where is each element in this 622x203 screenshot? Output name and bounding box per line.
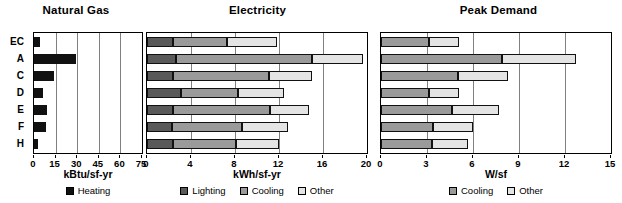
bar-segment-heating[interactable]	[34, 37, 40, 47]
x-tick-mark	[322, 155, 323, 158]
bar-segment-cooling[interactable]	[381, 54, 502, 64]
bar-segment-other[interactable]	[458, 71, 509, 81]
bar-row	[381, 122, 611, 132]
legend-label: Heating	[78, 186, 111, 196]
bar-segment-heating[interactable]	[34, 139, 38, 149]
bar-segment-lighting[interactable]	[147, 88, 181, 98]
x-axis-label-electricity: kWh/sf-yr	[146, 168, 368, 180]
bar-segment-cooling[interactable]	[173, 71, 269, 81]
x-axis-label-peak-demand: W/sf	[380, 168, 612, 180]
legend-item-heating[interactable]: Heating	[66, 186, 111, 196]
x-tick-mark	[234, 155, 235, 158]
bar-segment-lighting[interactable]	[147, 122, 172, 132]
bar-segment-lighting[interactable]	[147, 105, 173, 115]
y-axis-label-d: D	[17, 88, 24, 98]
legend-swatch-icon	[180, 187, 188, 195]
bar-row	[34, 105, 142, 115]
x-tick-mark	[278, 155, 279, 158]
legend-item-lighting[interactable]: Lighting	[180, 186, 225, 196]
x-axis-ticks-peak-demand: 03691215	[380, 155, 612, 169]
bar-segment-other[interactable]	[242, 122, 288, 132]
bar-row	[381, 71, 611, 81]
bar-segment-other[interactable]	[270, 105, 309, 115]
x-tick-mark	[366, 155, 367, 158]
bar-segment-other[interactable]	[312, 54, 363, 64]
bar-row	[381, 37, 611, 47]
bar-segment-lighting[interactable]	[147, 54, 176, 64]
bar-segment-lighting[interactable]	[147, 37, 173, 47]
bar-segment-other[interactable]	[227, 37, 277, 47]
bar-segment-cooling[interactable]	[176, 54, 312, 64]
bar-segment-other[interactable]	[429, 37, 460, 47]
bar-row	[147, 54, 367, 64]
legend-electricity: LightingCoolingOther	[146, 186, 368, 196]
y-axis-label-ec: EC	[10, 37, 24, 47]
panel-peak-demand: Peak Demand 03691215 W/sf CoolingOther	[375, 0, 622, 203]
bar-segment-other[interactable]	[452, 105, 500, 115]
bar-row	[381, 88, 611, 98]
bar-segment-cooling[interactable]	[173, 139, 236, 149]
bar-segment-cooling[interactable]	[181, 88, 238, 98]
bar-row	[34, 122, 142, 132]
bar-segment-cooling[interactable]	[173, 105, 270, 115]
bar-segment-cooling[interactable]	[381, 71, 458, 81]
legend-item-other[interactable]: Other	[298, 186, 334, 196]
bar-segment-cooling[interactable]	[381, 105, 452, 115]
panel-natural-gas: Natural Gas ECACDEFH 01530456075 kBtu/sf…	[0, 0, 152, 203]
legend-label: Other	[310, 186, 334, 196]
legend-label: Cooling	[252, 186, 284, 196]
x-tick-mark	[190, 155, 191, 158]
bar-segment-cooling[interactable]	[381, 122, 433, 132]
bar-segment-heating[interactable]	[34, 122, 46, 132]
bar-segment-lighting[interactable]	[147, 139, 173, 149]
panel-electricity: Electricity 048121620 kWh/sf-yr Lighting…	[140, 0, 375, 203]
bar-segment-heating[interactable]	[34, 71, 54, 81]
plot-area-natural-gas	[33, 32, 143, 154]
x-tick-mark	[426, 155, 427, 158]
bar-segment-heating[interactable]	[34, 88, 43, 98]
bar-row	[381, 54, 611, 64]
x-tick-mark	[33, 155, 34, 158]
plot-area-peak-demand	[380, 32, 612, 154]
bar-segment-cooling[interactable]	[381, 88, 429, 98]
x-tick-mark	[119, 155, 120, 158]
legend-peak-demand: CoolingOther	[380, 186, 612, 196]
bar-segment-other[interactable]	[238, 88, 284, 98]
x-axis-label-natural-gas: kBtu/sf-yr	[33, 168, 143, 180]
bar-segment-lighting[interactable]	[147, 71, 173, 81]
bar-row	[34, 88, 142, 98]
x-tick-mark	[55, 155, 56, 158]
x-tick-mark	[76, 155, 77, 158]
bar-segment-other[interactable]	[236, 139, 279, 149]
bar-row	[147, 139, 367, 149]
y-axis-label-h: H	[17, 139, 24, 149]
bar-segment-other[interactable]	[429, 88, 460, 98]
bar-row	[147, 88, 367, 98]
legend-item-other[interactable]: Other	[507, 186, 543, 196]
legend-swatch-icon	[240, 187, 248, 195]
bar-segment-other[interactable]	[432, 139, 469, 149]
legend-swatch-icon	[66, 187, 74, 195]
bar-segment-other[interactable]	[433, 122, 473, 132]
panel-title-peak-demand: Peak Demand	[375, 4, 622, 16]
x-tick-mark	[98, 155, 99, 158]
x-tick-mark	[472, 155, 473, 158]
x-tick-mark	[564, 155, 565, 158]
x-axis-ticks-natural-gas: 01530456075	[33, 155, 143, 169]
bar-segment-cooling[interactable]	[172, 122, 241, 132]
bar-segment-cooling[interactable]	[173, 37, 227, 47]
bar-segment-other[interactable]	[502, 54, 576, 64]
bar-row	[34, 139, 142, 149]
bar-segment-cooling[interactable]	[381, 139, 432, 149]
bar-row	[34, 37, 142, 47]
bar-row	[381, 139, 611, 149]
bar-segment-cooling[interactable]	[381, 37, 429, 47]
x-tick-mark	[146, 155, 147, 158]
y-axis-label-a: A	[17, 54, 24, 64]
bar-segment-heating[interactable]	[34, 105, 47, 115]
bar-segment-heating[interactable]	[34, 54, 76, 64]
legend-natural-gas: Heating	[33, 186, 143, 196]
legend-item-cooling[interactable]: Cooling	[449, 186, 493, 196]
legend-item-cooling[interactable]: Cooling	[240, 186, 284, 196]
bar-segment-other[interactable]	[269, 71, 312, 81]
